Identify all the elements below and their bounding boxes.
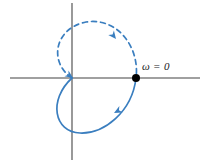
omega-zero-label: ω = 0 xyxy=(142,60,170,72)
lower-branch-curve xyxy=(57,78,136,133)
direction-arrowheads xyxy=(64,30,122,116)
plot-canvas xyxy=(0,0,207,166)
upper-branch-curve xyxy=(58,21,137,78)
arrow-upper-branch xyxy=(108,30,119,41)
arrow-lower-branch xyxy=(112,106,122,116)
omega-zero-marker-dot xyxy=(132,74,140,82)
nyquist-plot-figure: ω = 0 xyxy=(0,0,207,166)
